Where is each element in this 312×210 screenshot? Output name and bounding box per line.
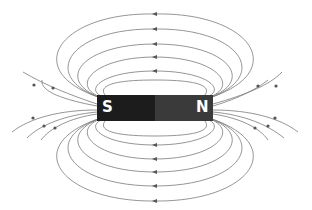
right-side-lines	[213, 72, 298, 140]
top-field-loops	[57, 14, 254, 97]
field-lines	[0, 0, 312, 210]
north-pole-label: N	[196, 98, 209, 116]
left-side-lines	[12, 72, 97, 140]
magnet-field-diagram: S N	[0, 0, 312, 210]
south-pole-label: S	[102, 98, 113, 116]
